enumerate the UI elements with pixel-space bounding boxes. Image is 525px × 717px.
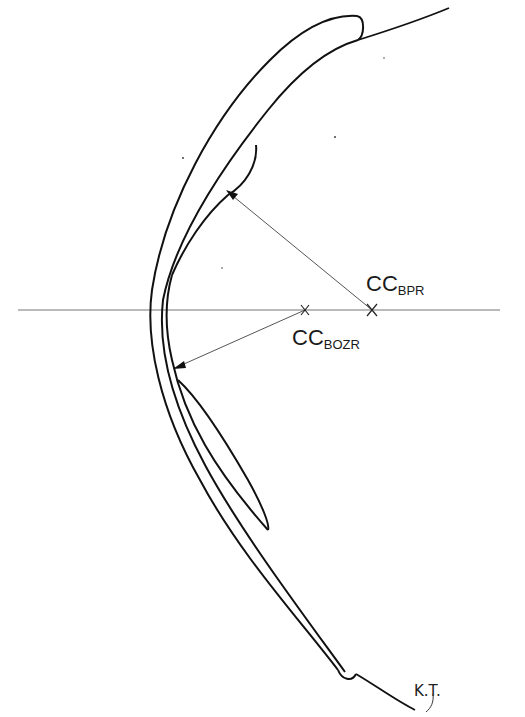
bozr-arrowhead-icon (173, 361, 186, 369)
upper-tear-layer (172, 145, 256, 275)
cornea-lower-tail (356, 674, 415, 710)
cornea-upper-tail (358, 8, 449, 40)
lens-back-surface (162, 40, 358, 672)
lens-top-edge (357, 16, 363, 40)
lens-bottom-edge (338, 670, 356, 679)
bozr-radius-line (175, 310, 305, 368)
bpr-radius-line (228, 192, 372, 310)
label-cc-bpr: CCBPR (366, 271, 425, 298)
lens-diagram: CCBPR CCBOZR K.T. (0, 0, 525, 717)
cornea-surface (167, 275, 268, 530)
lower-tear-layer (178, 380, 268, 530)
label-cc-bozr: CCBOZR (292, 325, 360, 352)
author-signature: K.T. (414, 682, 441, 700)
